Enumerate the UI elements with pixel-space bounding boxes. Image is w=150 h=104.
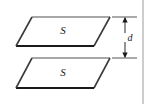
separation-dimension-group: d [112, 17, 137, 58]
arrowhead-up-icon [122, 17, 127, 23]
top-plate-group: S [16, 17, 110, 46]
top-plate-area-label: S [60, 24, 66, 36]
bottom-plate-group: S [16, 58, 110, 88]
figure-container: S S d [0, 0, 150, 104]
capacitor-diagram-svg: S S d [0, 0, 150, 104]
separation-distance-label: d [128, 32, 134, 43]
bottom-plate-area-label: S [60, 66, 66, 78]
arrowhead-down-icon [122, 53, 127, 59]
